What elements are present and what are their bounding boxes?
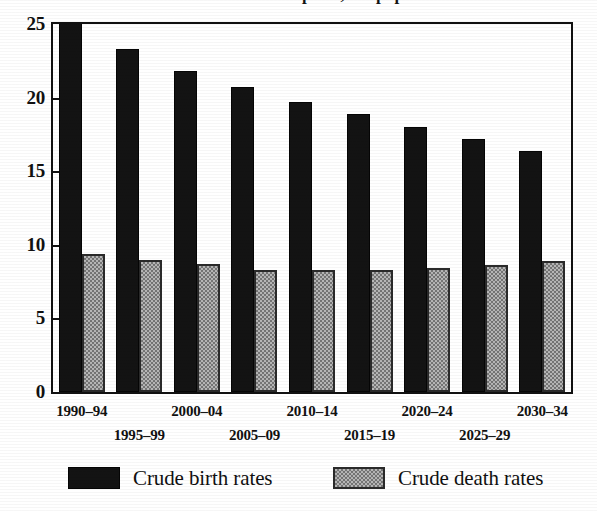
bar-crude-birth-rate [289,102,312,392]
bar-crude-birth-rate [116,49,139,392]
bar-group [456,24,514,392]
bar-crude-birth-rate [519,151,542,392]
bar-crude-birth-rate [404,127,427,392]
bar-crude-death-rate [139,260,162,392]
bar-group [111,24,169,392]
bar-group [283,24,341,392]
bar-group [53,24,111,392]
bar-crude-birth-rate [59,24,82,392]
y-axis-tick-label: 15 [0,160,45,182]
bar-crude-birth-rate [462,139,485,392]
clipped-title-text: crude birth and death rates per 1,000 po… [90,0,457,5]
bar-crude-death-rate [82,254,105,392]
bars-layer [53,24,571,392]
bar-crude-death-rate [485,265,508,392]
x-axis-tick-label: 2020–24 [402,403,453,420]
y-axis-tick-label: 10 [0,234,45,256]
x-axis-tick-label: 2025–29 [459,427,510,444]
x-axis-tick-label: 2015–19 [344,427,395,444]
y-axis-tick-label: 25 [0,13,45,35]
clipped-title-remnant: crude birth and death rates per 1,000 po… [0,0,597,12]
x-axis: 1990–941995–992000–042005–092010–142015–… [0,394,597,454]
bar-group [341,24,399,392]
bar-group [168,24,226,392]
x-axis-tick-label: 2030–34 [517,403,568,420]
x-axis-tick-label: 2005–09 [229,427,280,444]
bar-group [226,24,284,392]
x-axis-tick-label: 2010–14 [286,403,337,420]
bar-chart-figure: crude birth and death rates per 1,000 po… [0,0,597,511]
bar-crude-death-rate [427,268,450,392]
legend-swatch-icon-birth [68,467,120,489]
bar-group [398,24,456,392]
bar-crude-birth-rate [347,114,370,392]
x-axis-tick-label: 1990–94 [56,403,107,420]
legend-entry-crude-birth-rates: Crude birth rates [68,462,272,494]
x-axis-tick-label: 2000–04 [171,403,222,420]
x-axis-tick-label: 1995–99 [114,427,165,444]
bar-crude-death-rate [370,270,393,392]
legend-label-death: Crude death rates [398,466,543,491]
bar-crude-death-rate [254,270,277,392]
bar-crude-birth-rate [231,87,254,392]
bar-crude-death-rate [542,261,565,392]
legend-label-birth: Crude birth rates [133,466,272,491]
legend-swatch-icon-death [333,467,385,489]
bar-crude-birth-rate [174,71,197,392]
bar-group [513,24,571,392]
legend-entry-crude-death-rates: Crude death rates [333,462,543,494]
y-axis-tick-label: 20 [0,87,45,109]
chart-legend: Crude birth rates Crude death rates [0,462,597,502]
bar-crude-death-rate [197,264,220,392]
bar-crude-death-rate [312,270,335,392]
y-axis-tick-label: 5 [0,307,45,329]
